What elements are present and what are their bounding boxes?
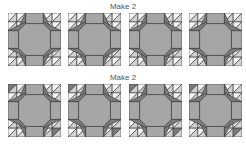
quilt-block-row2-3 (129, 84, 182, 137)
quilt-block-row1-2 (68, 13, 121, 66)
quilt-block-row2-1 (8, 84, 61, 137)
row-2-title: Make 2 (0, 73, 246, 82)
quilt-block-row1-1 (8, 13, 61, 66)
quilt-block-row1-4 (189, 13, 242, 66)
row-1-title: Make 2 (0, 2, 246, 11)
quilt-block-row2-4 (189, 84, 242, 137)
quilt-block-row2-2 (68, 84, 121, 137)
quilt-block-row1-3 (129, 13, 182, 66)
